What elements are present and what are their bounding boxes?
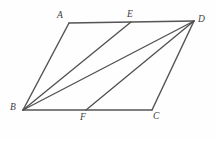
vertex-label-A: A — [57, 11, 63, 21]
point-label-F: F — [80, 113, 86, 123]
vertex-label-C: C — [153, 112, 159, 122]
vertex-label-B: B — [10, 103, 16, 113]
side-CD-line — [152, 21, 194, 110]
vertex-label-D: D — [198, 15, 205, 25]
segment-BE-line — [23, 22, 131, 110]
segment-DF-line — [86, 21, 194, 110]
geometry-canvas — [0, 0, 215, 141]
segment-BD-line — [23, 21, 194, 110]
geometry-figure: A B C D E F — [0, 0, 215, 141]
point-label-E: E — [127, 10, 133, 20]
side-AB-line — [23, 23, 69, 110]
